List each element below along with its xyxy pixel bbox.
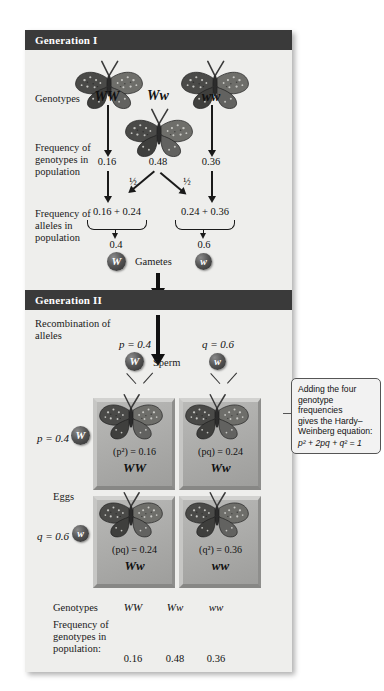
summary-genotype-ww: WW <box>117 601 149 613</box>
sperm-connector-right-a <box>210 373 220 384</box>
recombination-row-label: Recombination of alleles <box>35 318 115 342</box>
hardy-weinberg-figure: Generation I Genotypes WW Ww ww Frequenc… <box>25 30 292 672</box>
brace-left-stem <box>115 229 116 234</box>
sperm-connector-right-b <box>227 373 237 384</box>
brace-left <box>87 220 147 230</box>
egg-circle-w-recessive: w <box>72 525 89 542</box>
brace-right <box>175 220 235 230</box>
sperm-connector-left-a <box>126 373 136 384</box>
connector-ww-to-freq <box>107 105 109 151</box>
generation-1-header: Generation I <box>25 30 292 50</box>
gamete-circle-w-recessive: w <box>195 253 212 270</box>
half-label-left: ½ <box>121 176 145 187</box>
egg-frequency-q: q = 0.6 <box>33 530 73 542</box>
egg-circle-w-dominant: W <box>71 426 90 445</box>
brace-right-stem <box>203 229 204 234</box>
gametes-label: Gametes <box>135 256 172 268</box>
callout-equation: p² + 2pq + q² = 1 <box>298 438 374 449</box>
callout-line-1: Adding the four <box>298 384 374 395</box>
callout-line-3: gives the Hardy– <box>298 416 374 427</box>
sperm-frequency-q: q = 0.6 <box>193 338 243 350</box>
punnett-expr-q2: (q²) = 0.36 <box>183 544 258 555</box>
sperm-label: Sperm <box>153 357 180 369</box>
half-label-right: ½ <box>175 176 199 187</box>
punnett-genotype-ww-recessive: ww <box>183 558 258 574</box>
summary-frequency-label: Frequency of genotypes in population: <box>53 619 119 655</box>
punnett-expr-pq-top: (pq) = 0.24 <box>183 446 258 457</box>
allele-sum-w-recessive: 0.24 + 0.36 <box>169 206 241 217</box>
callout-line-2: genotype frequencies <box>298 395 374 416</box>
gen1-frequency-036: 0.36 <box>191 156 231 167</box>
summary-frequency-036: 0.36 <box>200 653 232 664</box>
punnett-expr-p2: (p²) = 0.16 <box>97 446 172 457</box>
sperm-frequency-p: p = 0.4 <box>110 338 160 350</box>
sperm-circle-w-dominant: W <box>125 352 144 371</box>
punnett-expr-pq-bottom: (pq) = 0.24 <box>97 544 172 555</box>
arrow-036-down <box>211 171 213 197</box>
summary-genotype-ww-hetero: Ww <box>159 601 191 613</box>
butterfly-punnett-ww-hetero-top <box>183 388 251 442</box>
callout-line-4: Weinberg equation: <box>298 426 374 437</box>
allele-frequency-06: 0.6 <box>184 239 224 250</box>
gen1-frequency-016: 0.16 <box>87 156 127 167</box>
eggs-label: Eggs <box>53 491 74 503</box>
punnett-genotype-ww-hetero-bottom: Ww <box>97 558 172 574</box>
genotypes-row-label: Genotypes <box>35 93 80 105</box>
gen1-frequency-048: 0.48 <box>138 156 178 167</box>
summary-genotypes-label: Genotypes <box>53 602 98 614</box>
hardy-weinberg-callout: Adding the four genotype frequencies giv… <box>291 378 381 454</box>
egg-frequency-p: p = 0.4 <box>33 432 73 444</box>
allele-frequency-04: 0.4 <box>96 239 136 250</box>
generation-2-header: Generation II <box>25 290 292 310</box>
gen1-genotype-ww-recessive: ww <box>191 89 231 105</box>
punnett-genotype-ww: WW <box>97 460 172 476</box>
butterfly-parent-heterozygote <box>123 102 195 160</box>
sperm-circle-w-recessive: w <box>209 353 226 370</box>
summary-genotype-ww-recessive: ww <box>200 601 232 613</box>
summary-frequency-016: 0.16 <box>117 653 149 664</box>
punnett-genotype-ww-hetero-top: Ww <box>183 460 258 476</box>
gen1-genotype-ww-dominant: WW <box>87 89 127 105</box>
arrow-016-down <box>107 171 109 197</box>
butterfly-punnett-ww-recessive <box>183 486 251 540</box>
connector-ww-rec-to-freq <box>211 105 213 151</box>
allele-sum-w: 0.16 + 0.24 <box>81 206 153 217</box>
butterfly-punnett-ww-hetero-bottom <box>97 486 165 540</box>
arrow-gen1-to-gen2-upper <box>156 273 160 289</box>
gamete-circle-w-dominant: W <box>107 252 126 271</box>
butterfly-punnett-ww <box>97 388 165 442</box>
summary-frequency-048: 0.48 <box>159 653 191 664</box>
sperm-connector-left-b <box>143 373 153 384</box>
